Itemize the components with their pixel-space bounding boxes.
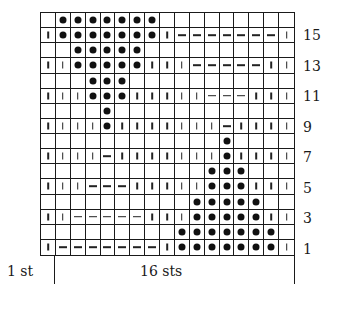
knit-bar-icon (77, 92, 79, 99)
chart-cell (175, 210, 190, 225)
chart-cell (71, 89, 86, 104)
chart-cell (264, 28, 279, 43)
row-label-7: 7 (303, 150, 312, 164)
chart-cell (249, 119, 264, 134)
chart-cell (234, 195, 249, 210)
knit-bar-icon (181, 92, 183, 99)
chart-cell (190, 89, 205, 104)
bobble-dot-icon (268, 244, 275, 251)
bobble-dot-icon (193, 198, 200, 205)
bobble-dot-icon (238, 168, 245, 175)
row-label-1: 1 (303, 242, 312, 256)
chart-cell (56, 104, 71, 119)
chart-cell (145, 149, 160, 164)
chart-cell (264, 240, 279, 255)
bobble-dot-icon (104, 47, 111, 54)
knit-bar-icon (151, 122, 153, 129)
chart-cell (160, 13, 175, 28)
chart-cell (160, 104, 175, 119)
chart-cell (101, 179, 116, 194)
knit-bar-icon (136, 153, 138, 160)
knit-bar-icon (286, 92, 288, 99)
chart-cell (175, 43, 190, 58)
chart-cell (205, 43, 220, 58)
chart-cell (160, 58, 175, 73)
knit-bar-icon (136, 122, 138, 129)
chart-cell (145, 210, 160, 225)
chart-cell (220, 149, 235, 164)
chart-cell (86, 164, 101, 179)
chart-cell (220, 210, 235, 225)
knit-bar-icon (286, 62, 288, 69)
chart-cell (41, 43, 56, 58)
knit-bar-icon (62, 213, 64, 220)
chart-cell (234, 210, 249, 225)
chart-cell (56, 240, 71, 255)
chart-cell (249, 164, 264, 179)
bobble-dot-icon (89, 32, 96, 39)
chart-cell (205, 13, 220, 28)
chart-cell (264, 210, 279, 225)
chart-cell (175, 149, 190, 164)
chart-cell (145, 240, 160, 255)
chart-cell (234, 225, 249, 240)
knit-bar-icon (196, 122, 198, 129)
bobble-dot-icon (149, 17, 156, 24)
bobble-dot-icon (89, 47, 96, 54)
purl-dash-icon (223, 34, 231, 36)
chart-cell (279, 179, 294, 194)
chart-cell (160, 119, 175, 134)
knit-bar-icon (122, 153, 124, 160)
chart-cell (190, 195, 205, 210)
bobble-dot-icon (208, 168, 215, 175)
chart-cell (86, 43, 101, 58)
chart-cell (41, 74, 56, 89)
chart-cell (249, 210, 264, 225)
bobble-dot-icon (74, 17, 81, 24)
knit-bar-icon (286, 244, 288, 251)
chart-cell (249, 149, 264, 164)
chart-cell (190, 225, 205, 240)
knit-bar-icon (62, 183, 64, 190)
chart-cell (115, 179, 130, 194)
chart-cell (249, 134, 264, 149)
chart-cell (279, 104, 294, 119)
chart-cell (205, 210, 220, 225)
chart-cell (130, 119, 145, 134)
chart-cell (71, 179, 86, 194)
purl-dash-icon (89, 186, 97, 188)
chart-cell (264, 43, 279, 58)
chart-cell (115, 74, 130, 89)
bobble-dot-icon (119, 32, 126, 39)
chart-cell (101, 210, 116, 225)
chart-cell (234, 13, 249, 28)
chart-cell (205, 225, 220, 240)
bobble-dot-icon (134, 17, 141, 24)
chart-cell (249, 179, 264, 194)
chart-cell (220, 43, 235, 58)
chart-cell (86, 179, 101, 194)
knit-bar-icon (270, 92, 272, 99)
bobble-dot-icon (119, 92, 126, 99)
chart-cell (279, 119, 294, 134)
bobble-dot-icon (104, 122, 111, 129)
chart-cell (56, 74, 71, 89)
chart-cell (115, 195, 130, 210)
bobble-dot-icon (208, 198, 215, 205)
purl-dash-icon (103, 155, 111, 157)
bobble-dot-icon (104, 32, 111, 39)
row-label-11: 11 (303, 89, 321, 103)
chart-cell (264, 58, 279, 73)
purl-dash-icon (267, 34, 275, 36)
chart-cell (115, 13, 130, 28)
chart-cell (249, 240, 264, 255)
knit-bar-icon (92, 153, 94, 160)
chart-cell (205, 195, 220, 210)
knit-bar-icon (255, 92, 257, 99)
bobble-dot-icon (208, 213, 215, 220)
knit-bar-icon (47, 183, 49, 190)
chart-cell (264, 179, 279, 194)
bobble-dot-icon (119, 47, 126, 54)
chart-cell (264, 134, 279, 149)
chart-cell (205, 240, 220, 255)
